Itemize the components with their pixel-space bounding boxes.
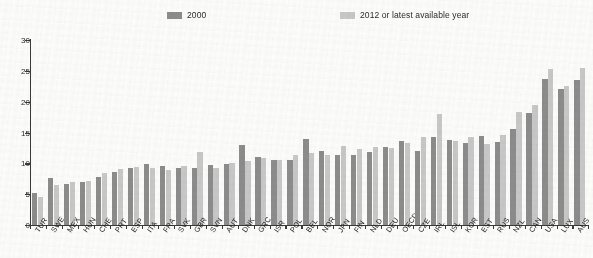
bar-2012 bbox=[516, 112, 521, 225]
bar-2000 bbox=[335, 155, 340, 225]
x-axis-tick bbox=[397, 225, 398, 229]
bar-2000 bbox=[431, 137, 436, 225]
x-axis-tick bbox=[413, 225, 414, 229]
chart-plot-area: 2000 2012 or latest available year 05101… bbox=[0, 0, 593, 258]
bar-2000 bbox=[96, 177, 101, 225]
bar-2012 bbox=[437, 114, 442, 225]
x-axis-tick bbox=[270, 225, 271, 229]
x-axis-tick bbox=[94, 225, 95, 229]
x-axis-tick bbox=[301, 225, 302, 229]
bar-2012 bbox=[500, 135, 505, 225]
x-axis-tick bbox=[525, 225, 526, 229]
bar-2000 bbox=[351, 155, 356, 225]
bar-2000 bbox=[32, 193, 37, 225]
bar-2012 bbox=[468, 137, 473, 225]
bar-2000 bbox=[526, 113, 531, 225]
bar-2012 bbox=[580, 68, 585, 225]
x-axis-tick bbox=[238, 225, 239, 229]
bar-2000 bbox=[447, 140, 452, 225]
x-axis-tick bbox=[30, 225, 31, 229]
legend-swatch-2012 bbox=[340, 12, 355, 19]
bar-2012 bbox=[150, 168, 155, 225]
legend-label-2012: 2012 or latest available year bbox=[360, 10, 469, 20]
x-axis-tick bbox=[285, 225, 286, 229]
bar-2000 bbox=[208, 165, 213, 225]
x-axis-tick bbox=[349, 225, 350, 229]
bar-2000 bbox=[271, 160, 276, 225]
legend-item-2012: 2012 or latest available year bbox=[340, 10, 469, 20]
bar-2000 bbox=[415, 151, 420, 225]
bar-2000 bbox=[463, 143, 468, 225]
bar-2012 bbox=[277, 160, 282, 225]
bar-2012 bbox=[532, 105, 537, 225]
x-axis-tick bbox=[445, 225, 446, 229]
bar-2000 bbox=[192, 168, 197, 225]
bar-2000 bbox=[303, 139, 308, 225]
bar-2000 bbox=[510, 129, 515, 225]
bar-2000 bbox=[574, 80, 579, 225]
bar-2000 bbox=[176, 168, 181, 225]
bar-2000 bbox=[287, 160, 292, 225]
bar-2000 bbox=[80, 182, 85, 225]
x-axis-tick bbox=[365, 225, 366, 229]
x-axis-tick bbox=[254, 225, 255, 229]
bar-2012 bbox=[564, 86, 569, 225]
bar-2012 bbox=[453, 141, 458, 225]
x-axis-tick bbox=[142, 225, 143, 229]
bar-2000 bbox=[399, 141, 404, 225]
bar-2000 bbox=[558, 89, 563, 225]
bar-2012 bbox=[421, 137, 426, 225]
x-axis-tick bbox=[509, 225, 510, 229]
x-axis-tick bbox=[317, 225, 318, 229]
legend-item-2000: 2000 bbox=[167, 10, 206, 20]
bar-2012 bbox=[293, 155, 298, 225]
x-axis-tick bbox=[333, 225, 334, 229]
legend-swatch-2000 bbox=[167, 12, 182, 19]
bar-2012 bbox=[341, 146, 346, 225]
x-axis-tick bbox=[78, 225, 79, 229]
bar-series-container: TURSWEMEXHUNCHEPRTESPITAFRASVKGBRSVNAUTD… bbox=[30, 0, 588, 258]
x-axis-tick bbox=[381, 225, 382, 229]
bar-2012 bbox=[309, 153, 314, 225]
bar-2012 bbox=[197, 152, 202, 225]
bar-2000 bbox=[479, 136, 484, 225]
bar-2000 bbox=[495, 142, 500, 225]
bar-2000 bbox=[128, 168, 133, 225]
bar-2000 bbox=[542, 79, 547, 225]
bar-2012 bbox=[548, 69, 553, 225]
bar-2012 bbox=[484, 144, 489, 225]
x-axis-tick bbox=[429, 225, 430, 229]
bar-2000 bbox=[239, 145, 244, 225]
bar-2000 bbox=[160, 166, 165, 225]
bar-2012 bbox=[389, 148, 394, 225]
bar-2000 bbox=[48, 178, 53, 225]
x-axis-tick bbox=[222, 225, 223, 229]
x-axis-tick bbox=[46, 225, 47, 229]
x-axis-tick bbox=[158, 225, 159, 229]
x-axis-tick bbox=[572, 225, 573, 229]
x-axis-tick bbox=[110, 225, 111, 229]
bar-2000 bbox=[224, 164, 229, 225]
legend-label-2000: 2000 bbox=[187, 10, 206, 20]
x-axis-tick bbox=[62, 225, 63, 229]
x-axis-tick bbox=[588, 225, 589, 229]
bar-2000 bbox=[255, 157, 260, 225]
bar-2012 bbox=[405, 143, 410, 225]
bar-2000 bbox=[112, 172, 117, 225]
bar-2000 bbox=[383, 147, 388, 225]
bar-2000 bbox=[319, 151, 324, 225]
x-axis-tick bbox=[126, 225, 127, 229]
bar-2012 bbox=[373, 147, 378, 225]
bar-2000 bbox=[144, 164, 149, 225]
x-axis-tick bbox=[477, 225, 478, 229]
x-axis-tick bbox=[541, 225, 542, 229]
bar-2012 bbox=[357, 149, 362, 225]
x-axis-tick bbox=[557, 225, 558, 229]
bar-2000 bbox=[367, 152, 372, 225]
x-axis-tick bbox=[206, 225, 207, 229]
bar-2000 bbox=[64, 184, 69, 225]
chart-legend: 2000 2012 or latest available year bbox=[0, 10, 593, 26]
x-axis-tick bbox=[493, 225, 494, 229]
